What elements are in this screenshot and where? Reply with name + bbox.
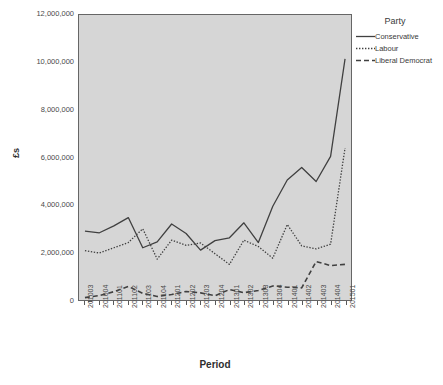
series-layer	[85, 59, 345, 298]
legend: Party ConservativeLabourLiberal Democrat	[356, 16, 442, 67]
x-axis-tick-label: 201103	[145, 285, 152, 308]
x-axis-tick-mark	[142, 301, 143, 305]
legend-item-label: Liberal Democrat	[375, 56, 432, 65]
y-axis-tick-label: 8,000,000	[16, 105, 74, 114]
x-axis-tick-mark	[84, 301, 85, 305]
plot-svg	[79, 15, 351, 300]
x-axis-tick-label: 201104	[160, 285, 167, 308]
x-axis-tick-mark	[171, 301, 172, 305]
x-axis-tick-label: 201404	[334, 285, 341, 308]
legend-swatch-icon	[356, 32, 375, 41]
legend-item-labour[interactable]: Labour	[356, 43, 442, 54]
legend-item-conservative[interactable]: Conservative	[356, 31, 442, 42]
legend-swatch-icon	[356, 56, 375, 65]
y-axis-tick-label: 6,000,000	[16, 153, 74, 162]
legend-swatch-icon	[356, 44, 375, 53]
x-axis-tick-mark	[113, 301, 114, 305]
x-axis-tick-mark	[215, 301, 216, 305]
legend-entries: ConservativeLabourLiberal Democrat	[356, 31, 442, 66]
legend-item-liberal-democrat[interactable]: Liberal Democrat	[356, 55, 442, 66]
x-axis-tick-label: 201003	[87, 285, 94, 308]
x-axis-tick-mark	[244, 301, 245, 305]
x-axis-tick-mark	[288, 301, 289, 305]
x-axis-tick-label: 201403	[320, 285, 327, 308]
x-axis-tick-mark	[157, 301, 158, 305]
x-axis-tick-label: 201301	[233, 285, 240, 308]
plot-area	[78, 14, 352, 301]
series-line-conservative	[85, 59, 345, 250]
x-axis-tick-mark	[99, 301, 100, 305]
x-axis-tick-label: 201402	[305, 285, 312, 308]
legend-item-label: Labour	[375, 44, 398, 53]
y-axis-tick-labels: 02,000,0004,000,0006,000,0008,000,00010,…	[14, 0, 74, 385]
series-line-labour	[85, 148, 345, 264]
x-axis-tick-label: 201201	[174, 285, 181, 308]
x-axis-tick-label: 201101	[116, 285, 123, 308]
x-axis-tick-mark	[259, 301, 260, 305]
x-axis-tick-mark	[128, 301, 129, 305]
x-axis-tick-label: 201004	[102, 285, 109, 308]
legend-item-label: Conservative	[375, 32, 419, 41]
x-axis-tick-label: 201303	[262, 285, 269, 308]
x-axis-tick-label: 201501	[349, 285, 356, 308]
x-axis-tick-mark	[230, 301, 231, 305]
x-axis-tick-label: 201102	[131, 285, 138, 308]
y-axis-tick-label: 2,000,000	[16, 248, 74, 257]
x-axis-tick-mark	[346, 301, 347, 305]
x-axis-tick-label: 201204	[218, 285, 225, 308]
x-axis-tick-mark	[317, 301, 318, 305]
x-axis-tick-label: 201203	[203, 285, 210, 308]
y-axis-tick-label: 4,000,000	[16, 200, 74, 209]
x-axis-tick-label: 201304	[276, 285, 283, 308]
x-axis-title: Period	[78, 359, 352, 370]
x-axis-tick-mark	[331, 301, 332, 305]
x-axis-tick-mark	[186, 301, 187, 305]
line-chart: £s 02,000,0004,000,0006,000,0008,000,000…	[0, 0, 443, 385]
y-axis-tick-label: 0	[16, 296, 74, 305]
x-axis-tick-mark	[302, 301, 303, 305]
y-axis-tick-label: 12,000,000	[16, 9, 74, 18]
x-axis-tick-mark	[273, 301, 274, 305]
y-axis-tick-label: 10,000,000	[16, 57, 74, 66]
x-axis-tick-label: 201202	[189, 285, 196, 308]
x-axis-tick-label: 201401	[291, 285, 298, 308]
x-axis-tick-mark	[200, 301, 201, 305]
x-axis-tick-label: 201302	[247, 285, 254, 308]
legend-title: Party	[356, 16, 434, 26]
